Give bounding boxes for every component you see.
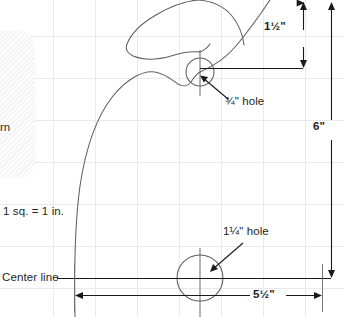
center-line-label: Center line	[2, 272, 59, 284]
small-hole-callout-label: ¾" hole	[225, 96, 264, 108]
inch-grid	[0, 0, 345, 317]
dimension-overall-width	[75, 292, 322, 299]
drawing-svg	[0, 0, 345, 317]
technical-drawing-canvas: rn 1 sq. = 1 in. Center line 1½" 6" 5½" …	[0, 0, 345, 317]
dimension-label-overall-height: 6"	[313, 121, 325, 133]
workpiece-outline	[75, 0, 270, 317]
dimension-label-top-offset: 1½"	[264, 21, 286, 33]
scale-note: 1 sq. = 1 in.	[3, 206, 64, 218]
large-hole-leader	[210, 243, 243, 272]
small-hole-leader	[200, 76, 228, 100]
dimension-overall-height	[328, 2, 335, 278]
extension-lines	[75, 69, 323, 313]
hatched-page-swatch	[0, 32, 34, 177]
clipped-title-text: rn	[0, 122, 10, 134]
hook-pattern-outline	[126, 0, 244, 59]
large-hole-callout-label: 1¼" hole	[223, 226, 269, 238]
dimension-label-overall-width: 5½"	[253, 289, 275, 301]
